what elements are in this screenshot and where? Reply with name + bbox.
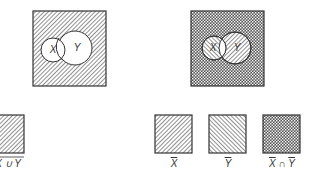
legend-label-x-complement: X — [160, 158, 188, 170]
legend-box-intersection — [263, 115, 300, 153]
label-y-right: Y — [230, 42, 244, 54]
legend-box-y-complement — [209, 115, 246, 153]
legend-label-op: ∩ — [276, 158, 289, 169]
legend-label-y-complement: Y — [214, 158, 242, 170]
legend-box-union-complement — [0, 115, 24, 153]
legend-label-intersection: X ∩ Y — [262, 158, 302, 170]
label-x-left: X — [46, 44, 60, 56]
legend-label-y-bar: Y — [288, 158, 295, 169]
label-y-left: Y — [70, 42, 84, 54]
legend-label-union-complement: X ∪ Y — [0, 158, 28, 170]
right-venn-diagram — [191, 11, 264, 86]
legend-label-x-bar: X — [269, 158, 276, 169]
label-x-right: X — [206, 42, 220, 54]
legend-box-x-complement — [155, 115, 192, 153]
venn-figure — [0, 0, 312, 178]
